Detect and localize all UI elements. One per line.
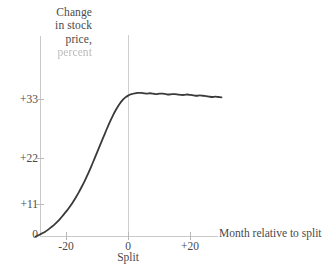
plot-area [0,0,336,267]
chart-figure: Change in stock price, percent +33 +22 +… [0,0,336,267]
